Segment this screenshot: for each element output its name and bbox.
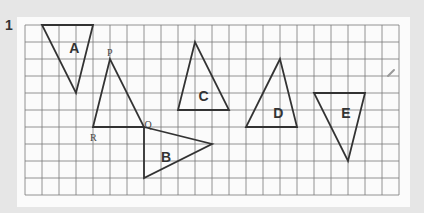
- shape-label-c: C: [198, 88, 208, 104]
- vertex-label-p: P: [107, 47, 113, 58]
- shape-label-e: E: [341, 105, 350, 121]
- vertex-label-r: R: [90, 132, 97, 143]
- shape-label-b: B: [161, 149, 171, 165]
- shape-label-a: A: [69, 40, 79, 56]
- pencil-mark-icon: [386, 68, 396, 78]
- shape-label-d: D: [273, 105, 283, 121]
- grid-diagram: APRQBCDE: [0, 0, 424, 213]
